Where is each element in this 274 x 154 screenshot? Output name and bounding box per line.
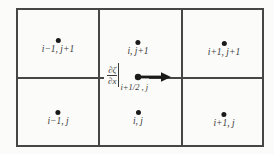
node-dot xyxy=(55,38,60,43)
node-dot xyxy=(135,40,140,45)
node-dot xyxy=(136,110,141,115)
node-dot xyxy=(221,112,226,117)
derivative-fraction: ∂ζ ∂x xyxy=(107,65,117,86)
node-label: i+1, j+1 xyxy=(208,47,240,58)
node-label: i+1, j xyxy=(213,118,234,129)
node-dot xyxy=(221,41,226,46)
derivative-denominator: ∂x xyxy=(107,76,117,86)
grid-node-top-left: i−1, j+1 xyxy=(42,38,74,55)
grid-node-bottom-left: i−1, j xyxy=(47,110,68,127)
arrow-head xyxy=(161,72,171,82)
node-label: i−1, j xyxy=(47,116,68,127)
right-arrow-icon xyxy=(130,68,176,86)
derivative-numerator: ∂ζ xyxy=(107,65,117,76)
node-label: i−1, j+1 xyxy=(42,44,74,55)
node-label: i, j xyxy=(133,116,143,127)
node-label: i, j+1 xyxy=(127,46,148,57)
grid-node-top-right: i+1, j+1 xyxy=(208,41,240,58)
grid-box: i−1, j+1 i, j+1 i+1, j+1 i−1, j i, j i+1… xyxy=(16,8,264,147)
evaluation-bar xyxy=(118,63,119,87)
figure-canvas: i−1, j+1 i, j+1 i+1, j+1 i−1, j i, j i+1… xyxy=(0,0,274,154)
grid-node-top-center: i, j+1 xyxy=(127,40,148,57)
grid-node-bottom-center: i, j xyxy=(133,110,143,127)
grid-node-bottom-right: i+1, j xyxy=(213,112,234,129)
node-dot xyxy=(55,110,60,115)
